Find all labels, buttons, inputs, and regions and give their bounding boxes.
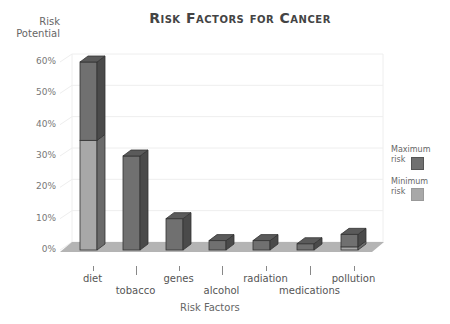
x-tick-mark <box>93 266 94 271</box>
x-axis-label: Risk Factors <box>180 302 240 313</box>
y-tick-label: 40% <box>20 119 56 129</box>
x-tick-label-alcohol: alcohol <box>204 285 240 296</box>
x-tick-label-diet: diet <box>83 273 102 284</box>
x-tick-mark <box>354 266 355 271</box>
y-tick-label: 20% <box>20 181 56 191</box>
x-tick-label-genes: genes <box>163 273 193 284</box>
x-tick-mark <box>136 266 137 275</box>
y-tick-label: 30% <box>20 150 56 160</box>
plot-area <box>0 0 450 324</box>
y-tick-label: 50% <box>20 87 56 97</box>
x-tick-mark <box>266 266 267 271</box>
x-tick-label-tobacco: tobacco <box>116 285 156 296</box>
x-tick-label-medications: medications <box>279 285 340 296</box>
y-tick-label: 0% <box>20 244 56 254</box>
legend-max-swatch <box>411 157 424 170</box>
x-tick-mark <box>310 266 311 275</box>
legend-min-swatch <box>411 188 424 201</box>
x-tick-mark <box>222 266 223 275</box>
x-tick-label-radiation: radiation <box>243 273 288 284</box>
y-tick-label: 10% <box>20 213 56 223</box>
y-tick-label: 60% <box>20 56 56 66</box>
x-tick-label-pollution: pollution <box>332 273 376 284</box>
x-tick-mark <box>179 266 180 271</box>
